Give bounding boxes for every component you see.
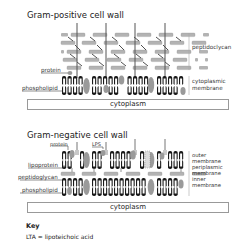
protein-label: protein	[41, 67, 61, 73]
phospholipid-label: phospholipid	[22, 85, 58, 91]
gram-positive-title: Gram-positive cell wall	[27, 10, 124, 20]
key-entry-lta: LTA = lipoteichoic acid	[26, 233, 93, 240]
lipoprotein-label: lipoprotein	[28, 162, 58, 168]
gram-negative-peptidoglycan	[61, 168, 206, 176]
peptidoglycan-label: peptidoclycan	[192, 44, 231, 50]
cytoplasmic-membrane-label: cytoplasmic membrane	[192, 78, 226, 91]
gram-positive-cytoplasm-box: cytoplasm	[27, 99, 229, 110]
gn-phospholipid-label: phospholipid	[22, 187, 58, 193]
gn-peptidoglycan-label: peptidoglycan	[18, 174, 58, 180]
gn-protein-label: protein	[50, 141, 68, 147]
gram-negative-outer-membrane	[62, 139, 183, 169]
gram-positive-membrane	[62, 71, 189, 95]
gram-negative-title: Gram-negative cell wall	[27, 130, 128, 140]
gram-negative-inner-membrane	[62, 178, 184, 196]
lps-label: LPS	[92, 141, 101, 147]
gn-membrane-labels: outer membrane periplasmic membrane inne…	[192, 152, 223, 189]
gram-negative-cytoplasm-box: cytoplasm	[27, 202, 229, 213]
key-title: Key	[26, 222, 40, 230]
